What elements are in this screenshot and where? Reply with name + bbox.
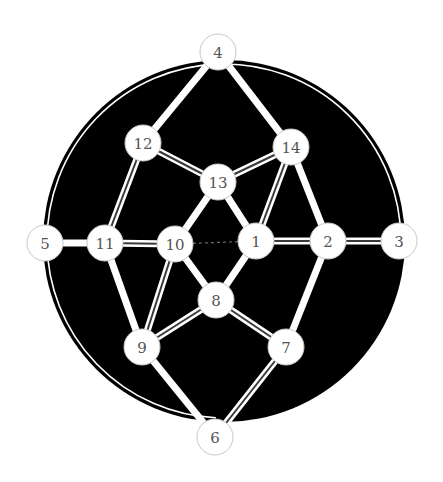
- node-10: 10: [157, 226, 193, 262]
- node-14: 14: [273, 129, 309, 165]
- node-label: 9: [137, 339, 147, 357]
- node-4: 4: [200, 34, 236, 70]
- node-label: 1: [251, 233, 261, 251]
- node-label: 10: [165, 236, 184, 254]
- node-label: 3: [394, 233, 404, 251]
- node-label: 12: [133, 135, 152, 153]
- node-7: 7: [268, 329, 304, 365]
- node-label: 8: [211, 292, 221, 310]
- node-9: 9: [124, 329, 160, 365]
- node-6: 6: [197, 419, 233, 455]
- node-label: 6: [210, 429, 220, 447]
- node-2: 2: [310, 223, 346, 259]
- node-label: 2: [323, 233, 333, 251]
- graph-diagram: 1234567891011121314: [0, 0, 443, 482]
- node-11: 11: [87, 225, 123, 261]
- node-12: 12: [125, 125, 161, 161]
- node-label: 5: [40, 235, 50, 253]
- node-8: 8: [198, 282, 234, 318]
- node-3: 3: [381, 223, 417, 259]
- node-label: 11: [95, 235, 114, 253]
- node-5: 5: [27, 225, 63, 261]
- node-13: 13: [200, 164, 236, 200]
- node-label: 7: [281, 339, 291, 357]
- node-label: 13: [208, 174, 227, 192]
- node-label: 14: [281, 139, 300, 157]
- node-label: 4: [213, 44, 223, 62]
- node-1: 1: [238, 223, 274, 259]
